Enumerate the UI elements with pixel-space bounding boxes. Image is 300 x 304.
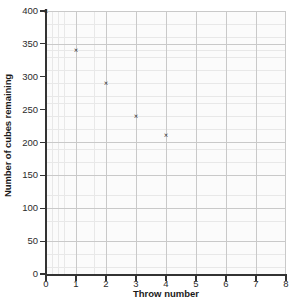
- y-tick-label: 400: [4, 6, 38, 16]
- data-point-marker: ×: [72, 46, 81, 55]
- data-point-marker: ×: [42, 7, 51, 16]
- x-axis-title: Throw number: [46, 288, 286, 299]
- y-axis-line: [45, 9, 47, 276]
- y-tick: [40, 241, 45, 242]
- y-tick: [40, 43, 45, 44]
- data-point-marker: ×: [102, 79, 111, 88]
- data-point-marker: ×: [132, 112, 141, 121]
- y-tick: [40, 109, 45, 110]
- scatter-chart: Number of cubes remaining 05010015020025…: [0, 0, 300, 304]
- y-tick: [40, 273, 45, 274]
- y-tick: [40, 208, 45, 209]
- y-tick-label: 100: [4, 203, 38, 213]
- y-tick-label: 250: [4, 105, 38, 115]
- y-tick-label: 150: [4, 170, 38, 180]
- y-tick-label: 200: [4, 138, 38, 148]
- data-point-marker: ×: [162, 131, 171, 140]
- y-tick-label: 0: [4, 269, 38, 279]
- plot-area: [46, 11, 286, 274]
- y-tick: [40, 76, 45, 77]
- y-tick-label: 350: [4, 39, 38, 49]
- y-tick: [40, 175, 45, 176]
- y-tick: [40, 142, 45, 143]
- y-tick-label: 50: [4, 236, 38, 246]
- y-tick-label: 300: [4, 72, 38, 82]
